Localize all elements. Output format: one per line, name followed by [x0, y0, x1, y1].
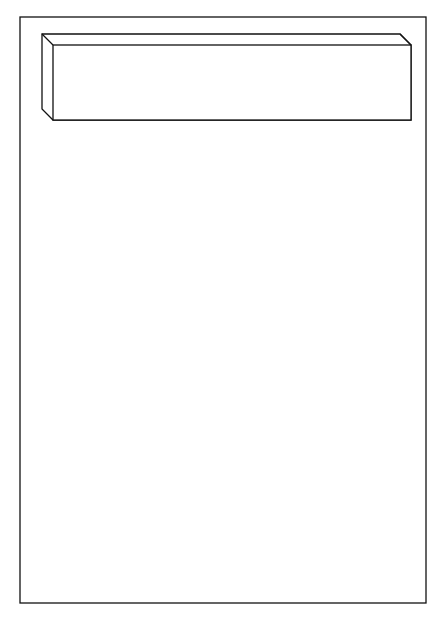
diagram-final [0, 0, 441, 618]
dos-client-components-container [42, 34, 411, 120]
